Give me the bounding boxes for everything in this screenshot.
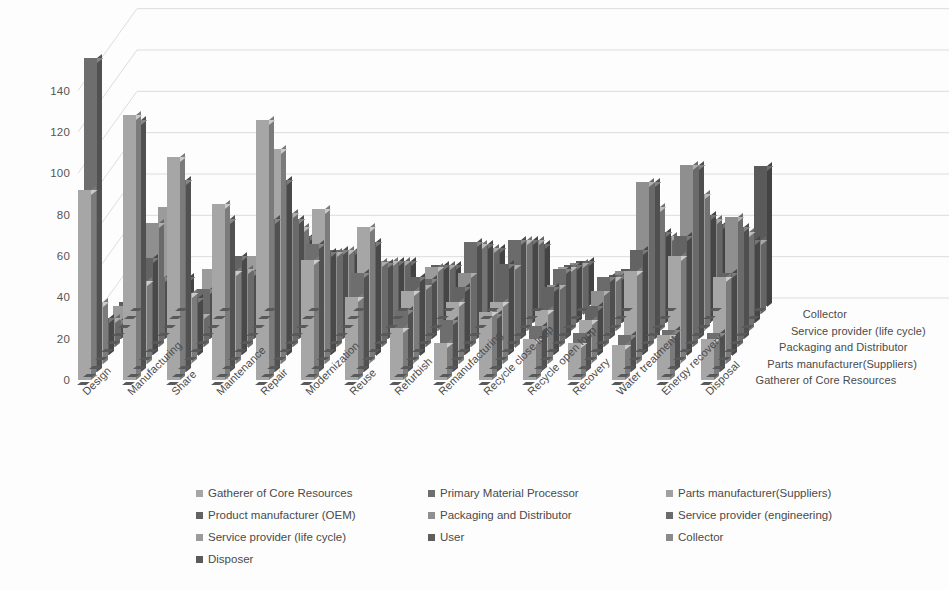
floor-tick <box>445 366 458 369</box>
floor-tick <box>264 308 277 311</box>
floor-tick <box>741 325 754 328</box>
floor-tick <box>557 333 570 336</box>
floor-tick <box>240 341 253 344</box>
floor-tick <box>118 325 131 328</box>
floor-tick <box>528 374 541 377</box>
floor-tick <box>172 374 185 377</box>
floor-tick <box>267 366 280 369</box>
floor-tick <box>344 382 357 385</box>
floor-tick <box>685 341 698 344</box>
floor-tick <box>519 325 532 328</box>
floor-tick <box>101 349 114 352</box>
floor-tick <box>706 374 719 377</box>
legend-swatch <box>196 490 203 497</box>
floor-tick <box>522 382 535 385</box>
floor-tick <box>495 357 508 360</box>
floor-tick <box>389 382 402 385</box>
legend-item[interactable]: Gatherer of Core Resources <box>196 487 352 499</box>
floor-tick <box>122 382 135 385</box>
floor-tick <box>620 308 633 311</box>
floor-tick <box>483 374 496 377</box>
floor-tick <box>400 366 413 369</box>
floor-tick <box>572 374 585 377</box>
floor-tick <box>368 349 381 352</box>
floor-tick <box>489 366 502 369</box>
floor-tick <box>107 341 120 344</box>
legend-item[interactable]: Disposer <box>196 553 253 565</box>
legend-item[interactable]: Parts manufacturer(Suppliers) <box>666 487 831 499</box>
floor-tick <box>145 349 158 352</box>
floor-tick <box>700 382 713 385</box>
floor-tick <box>222 366 235 369</box>
floor-tick <box>602 333 615 336</box>
floor-tick <box>534 366 547 369</box>
floor-tick <box>656 382 669 385</box>
floor-tick <box>451 357 464 360</box>
chart-legend: Gatherer of Core ResourcesPrimary Materi… <box>196 487 896 587</box>
legend-swatch <box>196 534 203 541</box>
legend-item[interactable]: Service provider (life cycle) <box>196 531 346 543</box>
legend-label: Service provider (life cycle) <box>208 531 346 543</box>
floor-tick <box>163 325 176 328</box>
floor-tick <box>724 349 737 352</box>
floor-tick <box>273 357 286 360</box>
floor-tick <box>124 316 137 319</box>
legend-swatch <box>666 534 673 541</box>
floor-tick <box>424 333 437 336</box>
floor-tick <box>184 357 197 360</box>
floor-tick <box>584 357 597 360</box>
legend-item[interactable]: Primary Material Processor <box>428 487 579 499</box>
floor-tick <box>608 325 621 328</box>
floor-tick <box>673 357 686 360</box>
floor-tick <box>667 366 680 369</box>
floor-tick <box>567 382 580 385</box>
legend-label: Disposer <box>208 553 253 565</box>
floor-tick <box>190 349 203 352</box>
floor-tick <box>590 349 603 352</box>
floor-tick <box>730 341 743 344</box>
floor-tick <box>617 374 630 377</box>
floor-tick <box>216 374 229 377</box>
floor-tick <box>596 341 609 344</box>
floor-tick <box>362 357 375 360</box>
floor-tick <box>611 382 624 385</box>
floor-tick <box>95 357 108 360</box>
floor-tick <box>709 308 722 311</box>
floor-tick <box>335 333 348 336</box>
legend-item[interactable]: Packaging and Distributor <box>428 509 572 521</box>
legend-item[interactable]: User <box>428 531 464 543</box>
floor-tick <box>575 308 588 311</box>
floor-tick <box>317 357 330 360</box>
floor-tick <box>77 382 90 385</box>
floor-tick <box>507 341 520 344</box>
floor-tick <box>305 374 318 377</box>
floor-tick <box>300 382 313 385</box>
floor-tick <box>394 374 407 377</box>
floor-tick <box>213 316 226 319</box>
floor-tick <box>347 316 360 319</box>
floor-tick <box>261 374 274 377</box>
floor-tick <box>635 349 648 352</box>
floor-tick <box>311 366 324 369</box>
floor-tick <box>629 357 642 360</box>
floor-tick <box>501 349 514 352</box>
legend-swatch <box>428 490 435 497</box>
legend-item[interactable]: Product manufacturer (OEM) <box>196 509 356 521</box>
floor-tick <box>397 308 410 311</box>
legend-swatch <box>196 556 203 563</box>
floor-tick <box>296 325 309 328</box>
chart-3d-bar: 020406080100120140 DesignManufacturingSh… <box>0 0 949 590</box>
floor-tick <box>691 333 704 336</box>
legend-label: Primary Material Processor <box>440 487 579 499</box>
floor-tick <box>463 341 476 344</box>
legend-label: Collector <box>678 531 723 543</box>
legend-item[interactable]: Service provider (engineering) <box>666 509 832 521</box>
floor-tick <box>652 325 665 328</box>
plot-area: 020406080100120140 DesignManufacturingSh… <box>0 0 949 470</box>
legend-item[interactable]: Collector <box>666 531 723 543</box>
floor-tick <box>646 333 659 336</box>
floor-tick <box>578 366 591 369</box>
floor-tick <box>703 316 716 319</box>
floor-tick <box>83 374 96 377</box>
legend-label: Product manufacturer (OEM) <box>208 509 356 521</box>
